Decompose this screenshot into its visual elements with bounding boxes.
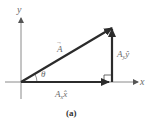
figure-caption: (a): [66, 108, 77, 118]
y-axis-label: y: [16, 4, 22, 15]
angle-label: θ: [41, 69, 46, 79]
vector-ax-label: Axx̂: [54, 89, 67, 100]
angle-arc: [35, 74, 37, 82]
vector-a: [21, 28, 112, 82]
vector-decomposition-diagram: y x θ → A Ayŷ Axx̂ (a): [0, 0, 147, 126]
vector-a-label: A: [56, 44, 63, 54]
x-axis-label: x: [139, 76, 145, 87]
vector-ay-label: Ayŷ: [116, 49, 129, 60]
